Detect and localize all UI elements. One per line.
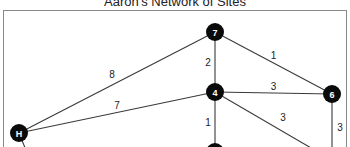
edge-weight-label: 2 — [205, 57, 211, 68]
edge-weight-label: 7 — [114, 100, 120, 111]
edge-weight-label: 3 — [337, 122, 343, 133]
edge-7-H — [19, 32, 215, 133]
network-graph: 21837133 746H — [0, 0, 350, 147]
edge-4-H — [19, 92, 215, 133]
node-label: 6 — [329, 90, 334, 100]
nodes-layer: 746H — [10, 23, 341, 147]
edge-weight-label: 3 — [280, 112, 286, 123]
node-label: H — [16, 129, 23, 139]
edge-weight-label: 8 — [109, 69, 115, 80]
node-label: 7 — [212, 28, 217, 38]
node-H: H — [10, 124, 28, 142]
edge-labels-layer: 21837133 — [109, 50, 343, 133]
edge-weight-label: 1 — [205, 117, 211, 128]
node-B — [206, 143, 224, 147]
node-6: 6 — [323, 85, 341, 103]
edge-4-offscreen-right — [215, 92, 318, 147]
node-circle — [206, 143, 224, 147]
edge-weight-label: 3 — [271, 81, 277, 92]
node-7: 7 — [206, 23, 224, 41]
node-label: 4 — [212, 88, 217, 98]
node-4: 4 — [206, 83, 224, 101]
edges-layer — [19, 32, 332, 147]
edge-4-6 — [215, 92, 332, 94]
edge-weight-label: 1 — [271, 50, 277, 61]
